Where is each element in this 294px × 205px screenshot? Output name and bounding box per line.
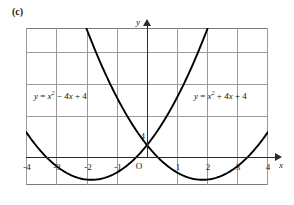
x-axis-line [26,157,276,158]
x-tick-label: -4 [19,162,35,172]
equation-left-lhs: y [34,91,38,101]
y-axis-line [147,24,148,158]
x-tick-label: -2 [80,162,96,172]
y-axis-arrow-icon [143,19,151,26]
equation-right-lhs: y [194,91,198,101]
equation-left-end-op: + [75,91,80,101]
y-axis-label: y [136,17,140,27]
x-tick-label: 2 [200,162,216,172]
equation-right-constant: 4 [242,91,247,101]
y-intercept-label: 4 [133,131,145,141]
x-tick-label: -1 [110,162,126,172]
equation-left-mid-term: 4x [64,91,73,101]
x-tick-label: 3 [230,162,246,172]
equation-right-equals: = [200,91,205,101]
x-axis-label: x [279,160,283,170]
x-tick-label: 1 [170,162,186,172]
figure-root: (c) x y -4 -3 -2 -1 1 2 3 4 O [0,0,294,205]
plot-area: x y -4 -3 -2 -1 1 2 3 4 O 4 y = x2 − 4x … [26,28,268,185]
equation-label-right: y = x2 + 4x + 4 [194,90,247,101]
equation-right-mid-term: 4x [224,91,233,101]
x-tick-label: -3 [49,162,65,172]
equation-left-constant: 4 [82,91,87,101]
part-label: (c) [12,6,23,17]
equation-left-exponent: 2 [52,90,55,96]
equation-right-exponent: 2 [212,90,215,96]
x-tick-label: 4 [260,162,276,172]
equation-right-end-op: + [235,91,240,101]
equation-label-left: y = x2 − 4x + 4 [34,90,87,101]
origin-label: O [132,161,146,171]
equation-left-equals: = [40,91,45,101]
equation-left-mid-op: − [57,91,62,101]
equation-right-mid-op: + [217,91,222,101]
